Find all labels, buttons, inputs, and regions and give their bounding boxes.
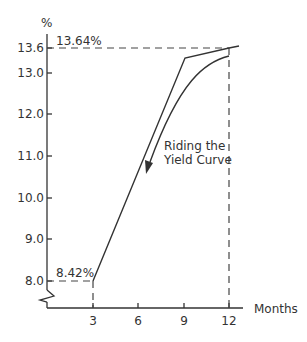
riding-label-2: Yield Curve	[163, 153, 232, 167]
x-tick-12: 12	[221, 314, 236, 328]
arrowhead-icon	[145, 160, 153, 174]
x-tick-9: 9	[180, 314, 188, 328]
y-tick-13-6: 13.6	[17, 41, 44, 55]
y-tick-9-0: 9.0	[25, 232, 44, 246]
y-unit-label: %	[41, 16, 52, 30]
annotation-high: 13.64%	[56, 34, 102, 48]
annotation-low: 8.42%	[56, 266, 94, 280]
y-tick-10-0: 10.0	[17, 191, 44, 205]
y-tick-8-0: 8.0	[25, 274, 44, 288]
y-tick-12-0: 12.0	[17, 107, 44, 121]
riding-label-1: Riding the	[164, 139, 225, 153]
x-axis	[47, 303, 243, 308]
y-tick-11-0: 11.0	[17, 149, 44, 163]
y-tick-13-0: 13.0	[17, 66, 44, 80]
x-tick-3: 3	[89, 314, 97, 328]
yield-curve-chart: % 13.64% 8.42% Riding the Yield Curve 13…	[0, 0, 307, 342]
x-tick-labels: 3 6 9 12	[89, 314, 236, 328]
x-tick-6: 6	[134, 314, 142, 328]
x-unit-label: Months	[254, 302, 298, 316]
y-tick-labels: 13.6 13.0 12.0 11.0 10.0 9.0 8.0	[17, 41, 44, 288]
